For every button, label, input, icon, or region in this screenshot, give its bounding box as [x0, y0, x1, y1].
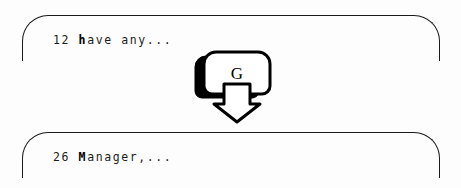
- bottom-panel-bold-prefix: M: [79, 150, 88, 164]
- keycap-letter: G: [231, 64, 243, 83]
- top-panel-space: [70, 33, 79, 47]
- top-panel-bold-prefix: h: [79, 33, 88, 47]
- bottom-panel-text: 26 Manager,...: [53, 150, 172, 164]
- diagram-canvas: 12 have any... G 26 Manager,...: [0, 0, 461, 188]
- top-panel-text: 12 have any...: [53, 33, 172, 47]
- keycap-arrow-graphic: G: [186, 46, 282, 126]
- top-panel-line-number: 12: [53, 33, 70, 47]
- top-panel-rest: ave any...: [87, 33, 172, 47]
- bottom-panel-space: [70, 150, 79, 164]
- bottom-panel-line-number: 26: [53, 150, 70, 164]
- bottom-panel: 26 Manager,...: [22, 132, 440, 178]
- bottom-panel-rest: anager,...: [87, 150, 172, 164]
